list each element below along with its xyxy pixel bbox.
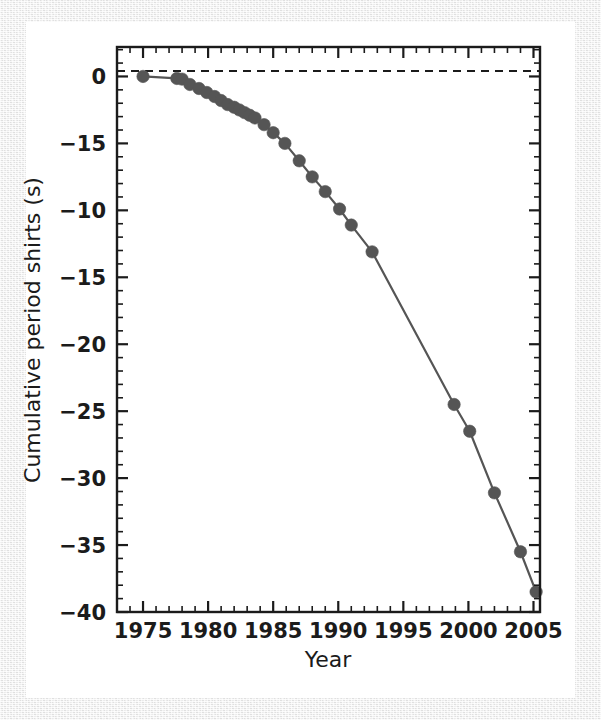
y-tick-label: −40 xyxy=(59,601,106,625)
y-tick-label: −20 xyxy=(59,333,106,357)
y-tick-label: −15 xyxy=(59,132,106,156)
x-tick-label: 1985 xyxy=(244,619,302,643)
data-point xyxy=(333,203,345,215)
data-point xyxy=(293,155,305,167)
chart-figure: 1975198019851990199520002005 0−15−10−15−… xyxy=(0,0,601,720)
data-point xyxy=(319,185,331,197)
y-tick-label: 0 xyxy=(91,65,106,89)
y-tick-label: −30 xyxy=(59,467,106,491)
plot-area-background xyxy=(117,47,540,612)
data-point xyxy=(488,487,500,499)
x-tick-label: 2005 xyxy=(504,619,562,643)
x-tick-label: 1975 xyxy=(114,619,172,643)
data-point xyxy=(448,398,460,410)
y-tick-label: −25 xyxy=(59,400,106,424)
data-point xyxy=(514,546,526,558)
x-tick-label: 2000 xyxy=(439,619,497,643)
x-axis-title: Year xyxy=(304,647,353,672)
x-axis-tick-labels: 1975198019851990199520002005 xyxy=(114,619,563,643)
x-tick-label: 1980 xyxy=(179,619,237,643)
data-point xyxy=(366,246,378,258)
y-tick-label: −10 xyxy=(59,199,106,223)
data-point xyxy=(345,219,357,231)
x-tick-label: 1990 xyxy=(309,619,367,643)
x-tick-label: 1995 xyxy=(374,619,432,643)
y-tick-label: −15 xyxy=(59,266,106,290)
y-axis-title: Cumulative period shirts (s) xyxy=(20,177,45,483)
y-axis-tick-labels: 0−15−10−15−20−25−30−35−40 xyxy=(59,65,106,625)
data-point xyxy=(464,425,476,437)
data-point xyxy=(279,137,291,149)
data-point xyxy=(137,70,149,82)
data-point xyxy=(306,171,318,183)
y-tick-label: −35 xyxy=(59,534,106,558)
data-point xyxy=(267,126,279,138)
